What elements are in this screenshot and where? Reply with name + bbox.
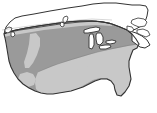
- lake-ontario: [106, 40, 116, 44]
- lake-michigan: [89, 34, 94, 49]
- lake-huron: [96, 33, 103, 45]
- us-map-svg: Contiguous United States shaded relief m…: [0, 0, 157, 113]
- map-figure: Contiguous United States shaded relief m…: [0, 0, 157, 113]
